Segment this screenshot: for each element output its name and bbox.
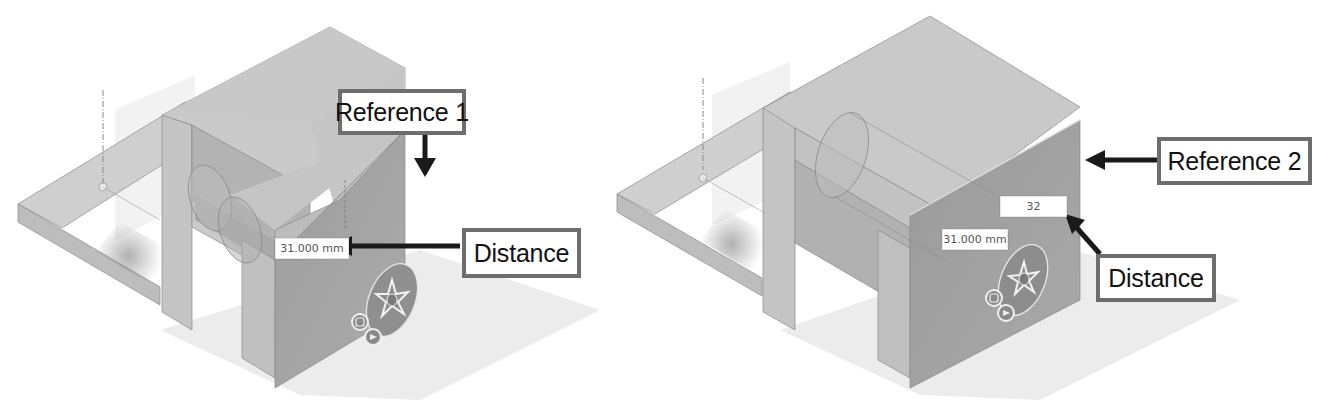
reference-2-label: Reference 2: [1168, 147, 1302, 176]
distance-value-text: 31.000 mm: [943, 233, 1006, 246]
distance-label: Distance: [474, 239, 570, 268]
distance-value-field-left[interactable]: 31.000 mm: [275, 238, 349, 259]
pillar-front-face: [878, 230, 910, 378]
rotate-right-icon[interactable]: [365, 329, 381, 345]
panel-right: 32 31.000 mm Reference 2 Distance: [600, 0, 1329, 403]
cad-model-viewport-right[interactable]: [600, 0, 1329, 403]
reference-1-arrowhead: [414, 158, 436, 177]
rotate-right-icon[interactable]: [998, 305, 1014, 321]
distance-arrow-upleft: [1077, 228, 1100, 254]
distance-callout-right: Distance: [1096, 254, 1216, 302]
reference-2-callout: Reference 2: [1157, 137, 1312, 185]
distance-value-field-right[interactable]: 31.000 mm: [942, 229, 1008, 250]
distance-value-text: 31.000 mm: [280, 242, 343, 255]
distance-label: Distance: [1108, 264, 1204, 293]
upright-left-face: [763, 108, 795, 330]
reference-1-callout: Reference 1: [338, 89, 466, 135]
cad-model-viewport-left[interactable]: [0, 0, 660, 403]
distance-edit-text: 32: [1027, 200, 1041, 213]
rotate-left-icon[interactable]: [986, 290, 1002, 306]
reference-2-arrowhead: [1085, 150, 1105, 170]
panel-left: 31.000 mm Reference 1 Distance: [0, 0, 660, 403]
reference-1-label: Reference 1: [335, 98, 469, 127]
upright-left-face: [162, 115, 192, 330]
distance-edit-field-right[interactable]: 32: [1000, 196, 1067, 217]
rotate-left-icon[interactable]: [352, 314, 368, 330]
distance-callout-left: Distance: [462, 228, 581, 278]
